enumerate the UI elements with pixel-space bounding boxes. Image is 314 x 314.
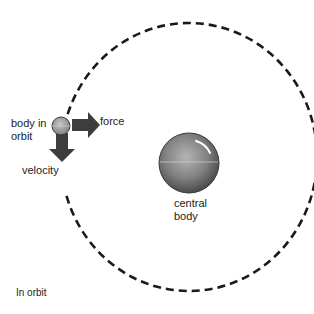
orbiting-body (52, 117, 70, 135)
caption: In orbit (16, 286, 47, 299)
body-in-orbit-label-2: orbit (11, 130, 32, 143)
velocity-label: velocity (22, 164, 59, 177)
velocity-arrow (49, 133, 75, 162)
central-body-label-2: body (174, 210, 198, 223)
body-in-orbit-label-1: body in (11, 117, 46, 130)
force-label: force (100, 115, 124, 128)
orbit-diagram (0, 0, 314, 314)
central-body-label-1: central (174, 197, 207, 210)
force-arrow (72, 112, 100, 138)
central-body (159, 133, 219, 193)
